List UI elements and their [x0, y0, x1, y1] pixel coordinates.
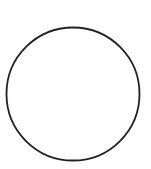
circle-shape — [7, 28, 140, 161]
diagram-canvas — [0, 0, 151, 169]
